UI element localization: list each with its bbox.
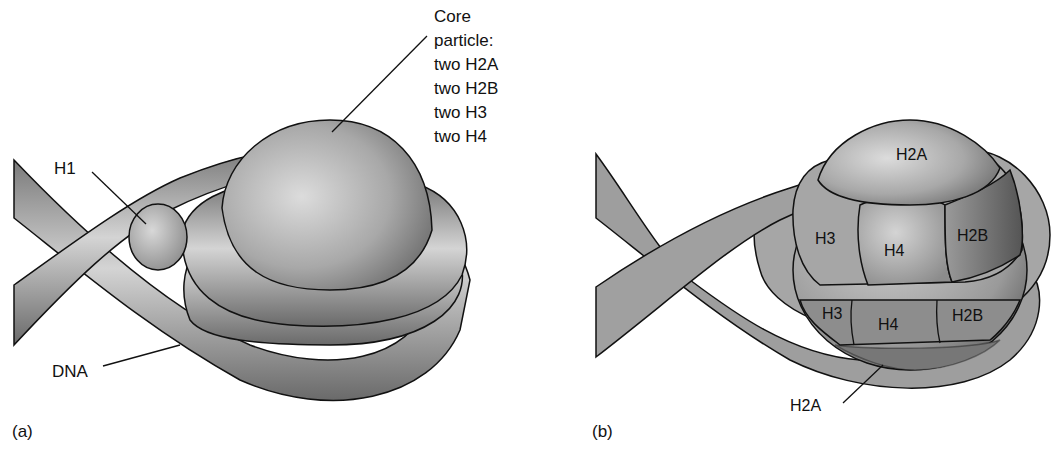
core-item-h4: two H4: [434, 127, 487, 146]
core-item-h2b: two H2B: [434, 79, 498, 98]
bottom-h2a-label: H2A: [790, 397, 821, 414]
core-particle-dome: [222, 120, 432, 290]
core-label-line2: particle:: [434, 31, 494, 50]
lower-h3-label: H3: [822, 305, 843, 322]
h1-histone: [129, 204, 187, 270]
top-h2a-label: H2A: [896, 146, 927, 163]
panel-a-label: (a): [12, 422, 33, 441]
upper-h4-label: H4: [884, 242, 905, 259]
h1-label: H1: [54, 159, 76, 178]
lower-h2b-label: H2B: [952, 307, 983, 324]
panel-b-label: (b): [592, 422, 613, 441]
core-leader-line: [332, 36, 427, 132]
panel-b: H2A H3 H4 H2B H3 H4 H2B H2A (b): [592, 120, 1050, 441]
upper-h2b-label: H2B: [957, 227, 988, 244]
core-item-h2a: two H2A: [434, 55, 499, 74]
upper-h4-region: [858, 198, 952, 286]
dna-label: DNA: [52, 362, 89, 381]
nucleosome-figure: Core particle: two H2A two H2B two H3 tw…: [0, 0, 1061, 455]
dna-leader-line: [103, 345, 180, 366]
core-label-line1: Core: [434, 7, 471, 26]
upper-h3-label: H3: [815, 230, 836, 247]
core-item-h3: two H3: [434, 103, 487, 122]
lower-h4-label: H4: [878, 316, 899, 333]
panel-a: Core particle: two H2A two H2B two H3 tw…: [12, 7, 499, 441]
